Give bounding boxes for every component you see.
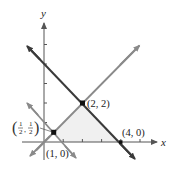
svg-text:1: 1: [19, 120, 23, 128]
label-point-2-2: (2, 2): [87, 98, 110, 110]
y-axis-label: y: [40, 7, 46, 19]
svg-text:1: 1: [29, 120, 33, 128]
label-point-4-0: (4, 0): [122, 127, 145, 139]
point-half-half: [51, 130, 56, 135]
point-4-0: [119, 140, 123, 144]
label-point-1-0: (1, 0): [46, 148, 69, 160]
svg-text:(: (: [12, 119, 17, 137]
point-2-2: [80, 101, 85, 106]
x-axis-label: x: [160, 136, 166, 148]
svg-text:2: 2: [19, 128, 23, 136]
svg-text:): ): [34, 119, 39, 137]
diagram-figure: y x (2, 2) (4, 0) (1, 0) ( 1 2 , 1 2 ): [0, 0, 183, 170]
label-point-half-half: ( 1 2 , 1 2 ): [12, 119, 39, 137]
svg-text:,: ,: [24, 125, 26, 134]
svg-text:2: 2: [29, 128, 33, 136]
